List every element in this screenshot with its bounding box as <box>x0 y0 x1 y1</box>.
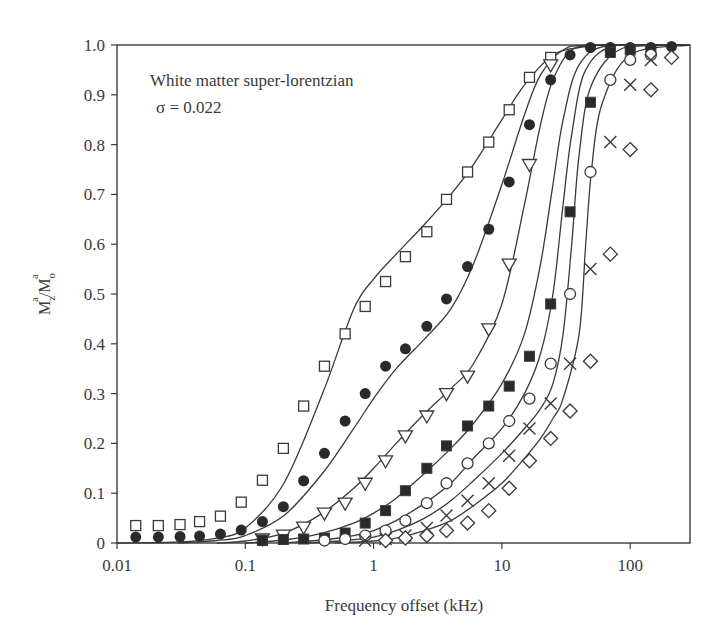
diamond-open-marker <box>461 516 475 530</box>
square-open-marker <box>360 301 370 311</box>
circle-open-marker <box>625 54 636 65</box>
fit-curves <box>117 45 690 543</box>
x-tick-label: 1 <box>369 556 378 575</box>
y-tick-label: 0 <box>97 534 106 553</box>
diamond-open-marker <box>420 529 434 543</box>
cross-marker <box>545 398 557 410</box>
diamond-open-marker <box>665 50 679 64</box>
square-open-marker <box>153 521 163 531</box>
y-axis-title: Mza/Moa <box>28 272 57 315</box>
circle-open-marker <box>585 166 596 177</box>
triangle-down-marker <box>317 508 331 520</box>
circle-open-marker <box>441 478 452 489</box>
square-open-marker <box>400 252 410 262</box>
diamond-open-marker <box>563 404 577 418</box>
chart: 00.10.20.30.40.50.60.70.80.91.0 0.010.11… <box>0 0 723 642</box>
y-axis-ticks: 00.10.20.30.40.50.60.70.80.91.0 <box>84 36 117 553</box>
circle-filled-marker <box>524 119 535 130</box>
triangle-down-marker <box>358 478 372 490</box>
triangle-down-marker <box>338 498 352 510</box>
y-tick-label: 0.4 <box>84 335 106 354</box>
y-tick-label: 0.6 <box>84 235 105 254</box>
square-open-marker <box>524 72 534 82</box>
square-filled-marker <box>585 97 595 107</box>
circle-open-marker <box>319 535 330 546</box>
cross-marker <box>503 450 515 462</box>
square-open-marker <box>319 361 329 371</box>
circle-open-marker <box>545 358 556 369</box>
square-open-marker <box>175 520 185 530</box>
circle-filled-marker <box>380 361 391 372</box>
square-open-marker <box>236 497 246 507</box>
square-filled-marker <box>442 441 452 451</box>
circle-filled-marker <box>400 343 411 354</box>
triangle-down-marker <box>502 259 516 271</box>
circle-filled-marker <box>215 529 226 540</box>
triangle-down-marker <box>379 456 393 468</box>
svg-text:Mza/Moa: Mza/Moa <box>28 272 57 315</box>
circle-open-marker <box>421 498 432 509</box>
y-tick-label: 0.9 <box>84 86 105 105</box>
y-tick-label: 0.3 <box>84 385 105 404</box>
x-axis-ticks: 0.010.1110100 <box>102 543 643 575</box>
square-open-marker <box>381 277 391 287</box>
square-open-marker <box>195 517 205 527</box>
circle-filled-marker <box>236 525 247 536</box>
circle-open-marker <box>483 438 494 449</box>
square-filled-marker <box>504 381 514 391</box>
triangle-down-marker <box>440 389 454 401</box>
circle-filled-marker <box>175 531 186 542</box>
triangle-down-marker <box>522 160 536 172</box>
circle-filled-marker <box>257 516 268 527</box>
circle-filled-marker <box>504 176 515 187</box>
square-filled-marker <box>565 207 575 217</box>
triangle-down-marker <box>482 324 496 336</box>
square-filled-marker <box>605 47 615 57</box>
square-filled-marker <box>463 421 473 431</box>
plot-border <box>117 45 690 543</box>
cross-marker <box>624 79 636 91</box>
square-open-marker <box>340 329 350 339</box>
fit-7 <box>335 45 690 543</box>
square-open-marker <box>504 105 514 115</box>
circle-filled-marker <box>585 42 596 53</box>
circle-open-marker <box>504 415 515 426</box>
square-open-marker <box>463 167 473 177</box>
circle-open-marker <box>462 458 473 469</box>
circle-open-marker <box>400 515 411 526</box>
circle-open-marker <box>605 74 616 85</box>
diamond-open-marker <box>583 354 597 368</box>
triangle-down-marker <box>297 522 311 534</box>
circle-filled-marker <box>483 224 494 235</box>
circle-filled-marker <box>441 293 452 304</box>
diamond-open-marker <box>623 143 637 157</box>
square-open-marker <box>299 401 309 411</box>
cross-marker <box>584 263 596 275</box>
square-filled-marker <box>381 506 391 516</box>
y-tick-label: 0.2 <box>84 434 105 453</box>
circle-filled-marker <box>298 475 309 486</box>
cross-marker <box>441 510 453 522</box>
x-tick-label: 100 <box>617 556 643 575</box>
square-filled-marker <box>400 486 410 496</box>
circle-filled-marker <box>278 501 289 512</box>
square-open-marker <box>422 227 432 237</box>
square-open-marker <box>131 521 141 531</box>
fit-6 <box>307 45 690 543</box>
square-filled-marker <box>278 535 288 545</box>
plot-frame <box>117 45 690 543</box>
cross-marker <box>483 477 495 489</box>
square-filled-marker <box>484 401 494 411</box>
y-tick-label: 1.0 <box>84 36 105 55</box>
circle-filled-marker <box>319 448 330 459</box>
fit-3 <box>217 45 690 543</box>
cross-marker <box>462 495 474 507</box>
square-filled-marker <box>625 45 635 55</box>
circle-filled-marker <box>130 532 141 543</box>
square-open-marker <box>278 443 288 453</box>
cross-marker <box>564 358 576 370</box>
diamond-open-marker <box>502 481 516 495</box>
square-filled-marker <box>360 518 370 528</box>
circle-filled-marker <box>360 388 371 399</box>
circle-open-marker <box>360 530 371 541</box>
